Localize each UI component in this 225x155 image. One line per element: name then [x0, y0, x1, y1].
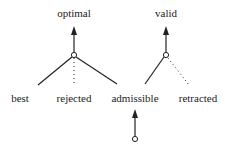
arrowhead-icon	[71, 26, 77, 35]
label-admissible: admissible	[111, 92, 158, 104]
valid-node	[145, 26, 189, 85]
edge-best	[38, 57, 72, 85]
label-rejected: rejected	[57, 92, 92, 104]
label-best: best	[11, 92, 29, 104]
admissible-source	[132, 109, 138, 142]
source-circle-icon	[132, 136, 137, 141]
edge-admissible	[76, 57, 117, 84]
argument-status-diagram: optimal valid best rejected admissible r…	[0, 0, 225, 155]
edge-admissible-valid	[145, 57, 164, 84]
edge-retracted-dotted	[168, 58, 189, 85]
arrowhead-icon	[132, 109, 138, 118]
junction-circle-icon	[71, 52, 76, 57]
label-valid: valid	[155, 7, 177, 19]
label-retracted: retracted	[179, 92, 218, 104]
junction-circle-icon	[163, 52, 168, 57]
label-optimal: optimal	[57, 7, 91, 19]
arrowhead-icon	[163, 26, 169, 35]
optimal-node	[38, 26, 117, 86]
